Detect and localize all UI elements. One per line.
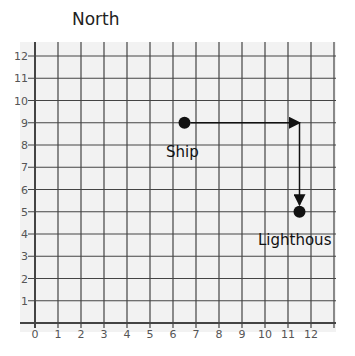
grid-plot: 1234567891011120123456789101112: [0, 0, 355, 356]
ship-label: Ship: [166, 143, 199, 161]
svg-text:11: 11: [281, 328, 295, 341]
svg-text:4: 4: [21, 228, 28, 241]
svg-text:10: 10: [14, 95, 28, 108]
svg-text:9: 9: [21, 117, 28, 130]
svg-text:8: 8: [21, 139, 28, 152]
svg-text:12: 12: [14, 50, 28, 63]
svg-text:4: 4: [124, 328, 131, 341]
svg-text:2: 2: [78, 328, 85, 341]
svg-text:0: 0: [32, 328, 39, 341]
svg-text:3: 3: [21, 250, 28, 263]
svg-text:9: 9: [239, 328, 246, 341]
lighthouse-label: Lighthous: [258, 231, 331, 249]
svg-text:5: 5: [21, 206, 28, 219]
svg-text:1: 1: [55, 328, 62, 341]
svg-text:2: 2: [21, 273, 28, 286]
svg-text:12: 12: [304, 328, 318, 341]
svg-text:10: 10: [258, 328, 272, 341]
svg-text:8: 8: [216, 328, 223, 341]
svg-text:7: 7: [21, 161, 28, 174]
svg-text:6: 6: [170, 328, 177, 341]
svg-text:7: 7: [193, 328, 200, 341]
svg-text:6: 6: [21, 184, 28, 197]
svg-text:5: 5: [147, 328, 154, 341]
svg-text:11: 11: [14, 72, 28, 85]
svg-text:1: 1: [21, 295, 28, 308]
svg-text:3: 3: [101, 328, 108, 341]
